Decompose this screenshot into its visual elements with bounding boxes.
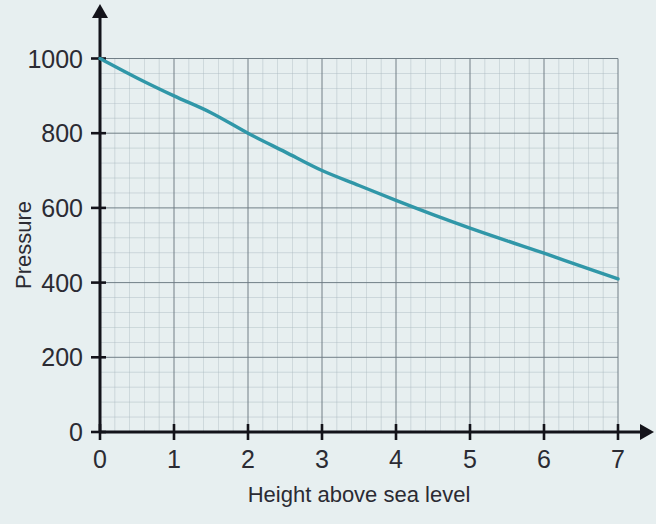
y-tick-label: 400: [41, 269, 83, 297]
y-tick-label: 800: [41, 119, 83, 147]
x-tick-label: 7: [611, 445, 625, 473]
y-tick-label: 1000: [27, 45, 83, 73]
x-tick-label: 6: [537, 445, 551, 473]
x-tick-label: 2: [241, 445, 255, 473]
y-tick-label: 0: [69, 418, 83, 446]
y-tick-label: 200: [41, 343, 83, 371]
x-tick-label: 5: [463, 445, 477, 473]
y-tick-label: 600: [41, 194, 83, 222]
x-tick-label: 3: [315, 445, 329, 473]
pressure-vs-height-line-chart: 01234567 02004006008001000 Height above …: [0, 0, 656, 524]
x-axis-title: Height above sea level: [248, 482, 471, 507]
x-tick-label: 4: [389, 445, 403, 473]
x-tick-label: 1: [167, 445, 181, 473]
x-tick-label: 0: [93, 445, 107, 473]
y-axis-title: Pressure: [11, 201, 36, 289]
chart-figure: 01234567 02004006008001000 Height above …: [0, 0, 656, 524]
